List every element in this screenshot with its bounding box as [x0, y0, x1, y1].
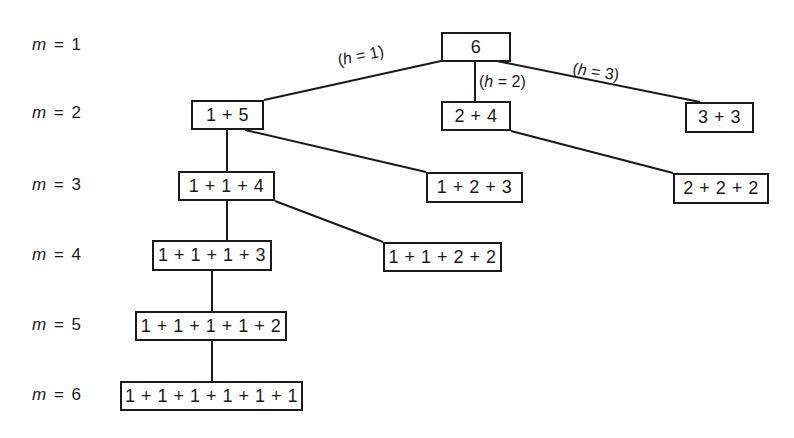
node-n222: 2 + 2 + 2 — [673, 173, 769, 204]
level-label-m2: m = 2 — [32, 103, 81, 123]
node-n114: 1 + 1 + 4 — [178, 171, 275, 201]
node-n111111: 1 + 1 + 1 + 1 + 1 + 1 — [120, 381, 303, 411]
edge-label-h2: (h = 2) — [479, 73, 526, 91]
edge-n15-n123 — [245, 130, 426, 172]
edge-n114-n1122 — [275, 201, 383, 242]
node-n15: 1 + 5 — [191, 100, 264, 130]
node-n123: 1 + 2 + 3 — [426, 172, 523, 203]
node-n24: 2 + 4 — [441, 101, 511, 131]
level-label-m5: m = 5 — [32, 315, 81, 335]
level-label-m6: m = 6 — [32, 385, 81, 405]
node-n6: 6 — [441, 32, 511, 62]
edge-n24-n222 — [511, 131, 673, 173]
level-label-m4: m = 4 — [32, 245, 81, 265]
node-n1113: 1 + 1 + 1 + 3 — [152, 240, 272, 271]
tree-edges — [0, 0, 794, 438]
level-label-m3: m = 3 — [32, 175, 81, 195]
node-n11112: 1 + 1 + 1 + 1 + 2 — [135, 311, 287, 341]
level-label-m1: m = 1 — [32, 35, 81, 55]
node-n1122: 1 + 1 + 2 + 2 — [383, 242, 502, 272]
node-n33: 3 + 3 — [685, 102, 754, 133]
